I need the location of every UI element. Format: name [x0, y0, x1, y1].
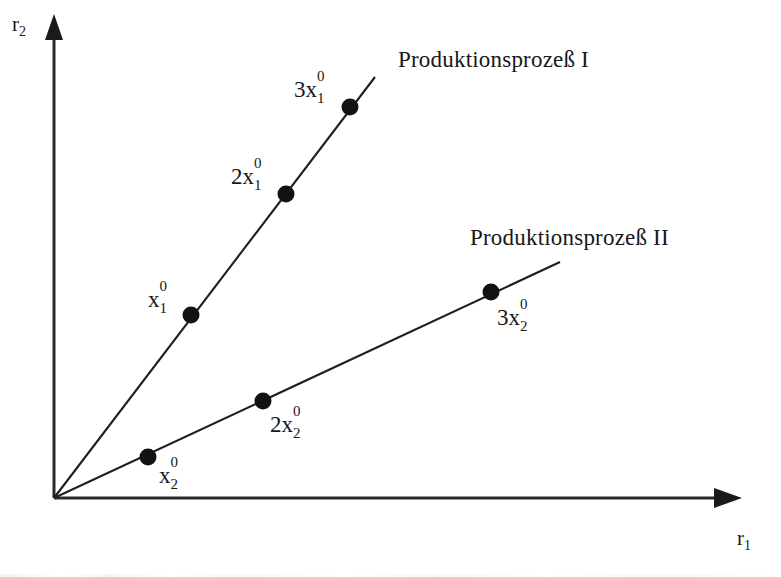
label-2x1-0-base: x	[243, 164, 255, 189]
x-axis-label-sub: 1	[744, 539, 751, 553]
y-axis-label-base: r	[12, 12, 19, 36]
label-x2-0-sub: 2	[171, 477, 179, 492]
label-2x2-0-base: x	[282, 412, 294, 437]
label-3x2-0: 3x02	[497, 306, 520, 329]
label-x2-0: x02	[159, 464, 171, 487]
y-axis-label: r 2	[12, 14, 19, 35]
label-2x1-0-coef: 2	[231, 164, 243, 189]
process-2-point-x2	[140, 449, 157, 466]
process-2-ray	[54, 262, 560, 498]
label-3x1-0-coef: 3	[294, 77, 306, 102]
x-axis-label: r 1	[737, 528, 744, 549]
label-3x2-0-base: x	[509, 305, 521, 330]
process-1-title: Produktionsprozeß I	[398, 48, 589, 71]
process-1-ray	[54, 77, 375, 498]
process-1-point-2x1	[278, 186, 295, 203]
y-axis-arrowhead	[45, 14, 63, 40]
process-2-ray-group	[54, 262, 560, 498]
label-3x2-0-sup: 0	[520, 297, 528, 312]
label-2x1-0-sup: 0	[254, 156, 262, 171]
diagram-svg	[0, 0, 781, 577]
label-x1-0-sub: 1	[160, 301, 168, 316]
x-axis-label-base: r	[737, 526, 744, 550]
label-2x2-0-coef: 2	[270, 412, 282, 437]
label-x1-0-sup: 0	[160, 279, 168, 294]
y-axis-label-sub: 2	[19, 25, 26, 39]
label-3x2-0-coef: 3	[497, 305, 509, 330]
x-axis-group	[54, 488, 742, 508]
process-1-ray-group	[54, 77, 375, 498]
label-3x1-0-sup: 0	[317, 69, 325, 84]
label-x1-0-base: x	[148, 287, 160, 312]
label-2x1-0: 2x01	[231, 165, 254, 188]
label-3x2-0-sub: 2	[520, 319, 528, 334]
process-1-point-x1	[183, 307, 200, 324]
x-axis-arrowhead	[714, 488, 742, 508]
label-3x1-0-sub: 1	[317, 91, 325, 106]
label-x2-0-base: x	[159, 463, 171, 488]
label-2x1-0-sub: 1	[254, 178, 262, 193]
label-2x2-0: 2x02	[270, 413, 293, 436]
process-2-point-3x2	[483, 284, 500, 301]
label-2x2-0-sub: 2	[293, 426, 301, 441]
label-x2-0-sup: 0	[171, 455, 179, 470]
label-3x1-0: 3x01	[294, 78, 317, 101]
process-1-point-3x1	[342, 99, 359, 116]
label-2x2-0-sup: 0	[293, 404, 301, 419]
process-2-title: Produktionsprozeß II	[470, 226, 669, 249]
figure-canvas: r 2 r 1 Produktionsprozeß I Produktionsp…	[0, 0, 781, 577]
label-x1-0: x01	[148, 288, 160, 311]
label-3x1-0-base: x	[306, 77, 318, 102]
process-2-point-2x2	[255, 393, 272, 410]
y-axis-group	[45, 14, 63, 498]
